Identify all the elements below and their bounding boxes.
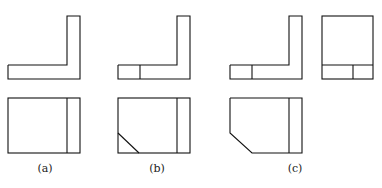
panel-a-label: (a) [37, 162, 52, 175]
panel-c-top-view [230, 98, 302, 153]
panel-a-top-view [8, 98, 80, 153]
projection-drawing [0, 0, 382, 188]
panel-b-front-view [118, 16, 190, 79]
panel-c-side-view [322, 16, 373, 79]
panel-b-top-view [118, 98, 190, 153]
panel-a-front-view [8, 16, 80, 79]
panel-b-label: (b) [149, 162, 165, 175]
panel-c-label: (c) [288, 162, 303, 175]
panel-c-front-view [230, 16, 302, 79]
